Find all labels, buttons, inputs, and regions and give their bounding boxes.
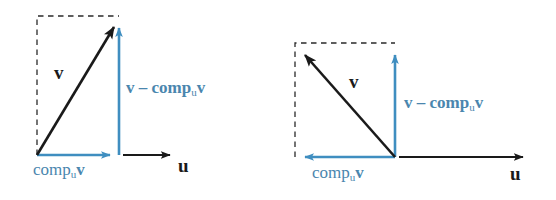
label-axis-u-right: u: [510, 163, 521, 185]
label-diff-prefix-left: v – comp: [126, 78, 191, 97]
label-comp-u-v-left: compuv: [33, 160, 85, 180]
label-diff-vector-left: v: [197, 78, 206, 97]
label-vector-v-right: v: [349, 71, 359, 93]
label-diff-vector-right: v: [475, 93, 484, 112]
vector-projection-figure: v u compuv v – compuv v u compuv v – com…: [0, 0, 556, 200]
label-vector-v-left: v: [54, 62, 64, 84]
label-comp-vector-right: v: [355, 163, 364, 182]
label-comp-u-v-right: compuv: [312, 163, 364, 183]
label-v-minus-comp-left: v – compuv: [126, 78, 205, 98]
label-comp-text-right: comp: [312, 163, 350, 182]
label-axis-u-left: u: [178, 155, 189, 177]
label-comp-text-left: comp: [33, 160, 71, 179]
label-v-minus-comp-right: v – compuv: [404, 93, 483, 113]
label-diff-prefix-right: v – comp: [404, 93, 469, 112]
label-comp-vector-left: v: [76, 160, 85, 179]
vector-v-arrow-left: [37, 27, 114, 155]
